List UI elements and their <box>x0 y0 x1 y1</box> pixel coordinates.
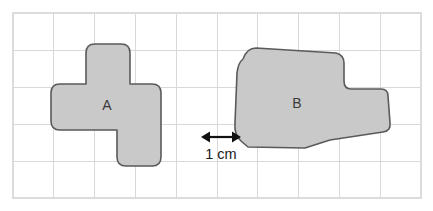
shape-b-group: B <box>235 48 390 148</box>
shape-b-label: B <box>292 95 301 111</box>
geometry-figure: A B 1 cm <box>0 0 433 211</box>
shape-b-outline <box>235 48 390 148</box>
shape-a-group: A <box>51 44 161 166</box>
scale-bar-group: 1 cm <box>201 132 241 162</box>
scale-arrowhead-left-icon <box>201 132 210 143</box>
figure-canvas: A B 1 cm <box>0 0 433 211</box>
scale-bar-label: 1 cm <box>205 146 236 162</box>
shape-a-label: A <box>102 97 112 113</box>
